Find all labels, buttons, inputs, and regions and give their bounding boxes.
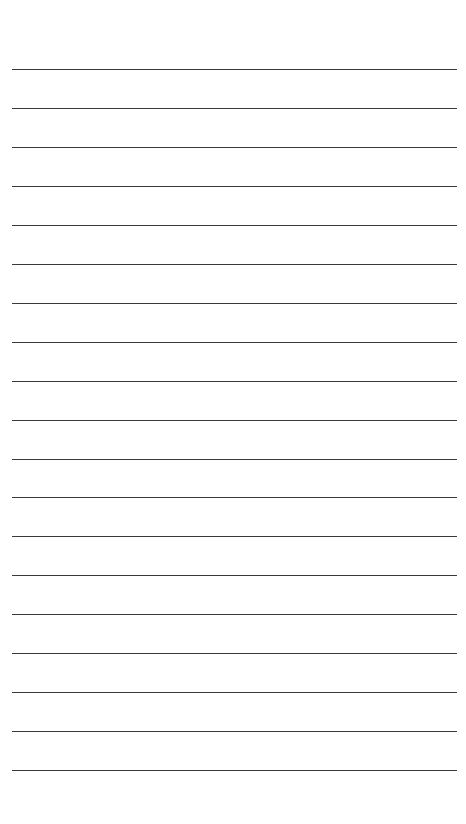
ruled-line (12, 459, 457, 460)
ruled-line (12, 692, 457, 693)
ruled-line (12, 497, 457, 498)
ruled-line (12, 420, 457, 421)
ruled-line (12, 303, 457, 304)
ruled-line (12, 108, 457, 109)
ruled-line (12, 147, 457, 148)
lined-paper-page (0, 0, 466, 824)
ruled-line (12, 731, 457, 732)
ruled-line (12, 653, 457, 654)
ruled-line (12, 225, 457, 226)
ruled-line (12, 614, 457, 615)
ruled-line (12, 186, 457, 187)
ruled-line (12, 770, 457, 771)
ruled-line (12, 381, 457, 382)
ruled-line (12, 342, 457, 343)
ruled-line (12, 69, 457, 70)
ruled-line (12, 575, 457, 576)
ruled-line (12, 536, 457, 537)
ruled-line (12, 264, 457, 265)
